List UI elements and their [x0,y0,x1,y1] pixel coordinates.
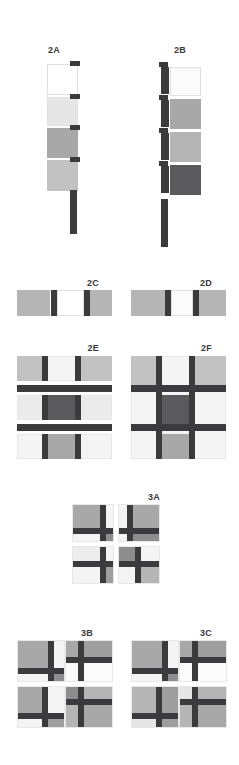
3c-quad-bl-q-block-b [162,687,179,728]
3c-quad-bl-hbar [132,713,179,719]
3c-quad-br-hbar [180,699,227,705]
3c-quad-bl-vbar [156,687,162,728]
3c-quad-tl-q-block-a [132,641,162,668]
3c-quad-bl [131,686,179,728]
figure-canvas: 2A2B2C2D2E2F3A3B3C [0,0,239,765]
3c-quad-tr [179,640,227,682]
3c-quad-tl [131,640,179,682]
3c-quad-br [179,686,227,728]
3c-quad-tr-q-block-b [198,641,227,657]
panel-label-3c: 3C [200,628,212,638]
3c-quad-tl-hbar [132,668,179,674]
3c-quad-tr-q-block-a [180,641,192,657]
3c-quad-br-vbar [192,687,198,728]
3c-quad-tl-vbar [162,641,168,682]
3c-quad-br-q-block-a [180,687,192,699]
panel-3c: 3C [0,0,239,765]
3c-quad-tr-hbar [180,657,227,663]
3c-quad-bl-q-block-a [132,687,156,713]
